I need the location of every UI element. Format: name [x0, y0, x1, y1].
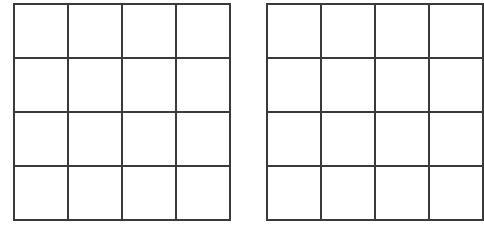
grid-cell [176, 58, 230, 112]
grid-cell [122, 58, 176, 112]
grid-cell [267, 4, 321, 58]
grid-cell [429, 166, 483, 220]
grid-cell [321, 58, 375, 112]
grid-cell [375, 58, 429, 112]
grid-cell [176, 4, 230, 58]
grid-cell [122, 166, 176, 220]
grid-cell [122, 112, 176, 166]
grid-cell [375, 112, 429, 166]
grid-cell [429, 112, 483, 166]
grid-cell [429, 4, 483, 58]
grid-left [13, 3, 231, 221]
grid-cell [14, 58, 68, 112]
grid-cell [68, 58, 122, 112]
grid-cell [267, 166, 321, 220]
grid-cell [375, 4, 429, 58]
grid-cell [14, 166, 68, 220]
grid-cell [321, 4, 375, 58]
grid-cell [429, 58, 483, 112]
grid-cell [321, 166, 375, 220]
grid-cell [321, 112, 375, 166]
grid-cell [68, 166, 122, 220]
grid-cell [267, 58, 321, 112]
grid-cell [267, 112, 321, 166]
grid-cell [68, 4, 122, 58]
grid-cell [14, 4, 68, 58]
grid-cell [122, 4, 176, 58]
grid-cell [176, 112, 230, 166]
grid-cell [68, 112, 122, 166]
grid-cell [375, 166, 429, 220]
grid-cell [14, 112, 68, 166]
grid-right [266, 3, 484, 221]
grid-cell [176, 166, 230, 220]
